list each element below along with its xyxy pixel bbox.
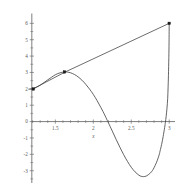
data-point-marker <box>168 22 171 25</box>
y-tick-label: 5 <box>25 37 28 43</box>
secant-line <box>32 23 169 89</box>
y-tick-label: -3 <box>23 168 28 174</box>
x-tick-label: 1.5 <box>52 125 59 131</box>
data-point-marker <box>32 88 35 91</box>
y-tick-label: 3 <box>25 69 28 75</box>
y-tick-label: -1 <box>23 135 28 141</box>
y-tick-label: 6 <box>25 20 28 26</box>
plot-canvas: 1.522.53 6543210-1-2-3 x <box>0 0 184 194</box>
y-tick-labels: 6543210-1-2-3 <box>23 20 28 173</box>
y-tick-label: 4 <box>25 53 28 59</box>
chart-figure: 1.522.53 6543210-1-2-3 x <box>0 0 184 194</box>
y-tick-label: 0 <box>25 118 28 124</box>
function-curve <box>29 23 169 176</box>
axes-group <box>32 14 175 184</box>
y-tick-label: 1 <box>25 102 28 108</box>
x-tick-label: 2 <box>92 125 95 131</box>
x-tick-label: 2.5 <box>128 125 135 131</box>
x-axis-title: x <box>91 133 95 139</box>
data-point-marker <box>63 71 66 74</box>
x-tick-label: 3 <box>168 125 171 131</box>
y-tick-label: -2 <box>23 151 28 157</box>
y-tick-label: 2 <box>25 86 28 92</box>
